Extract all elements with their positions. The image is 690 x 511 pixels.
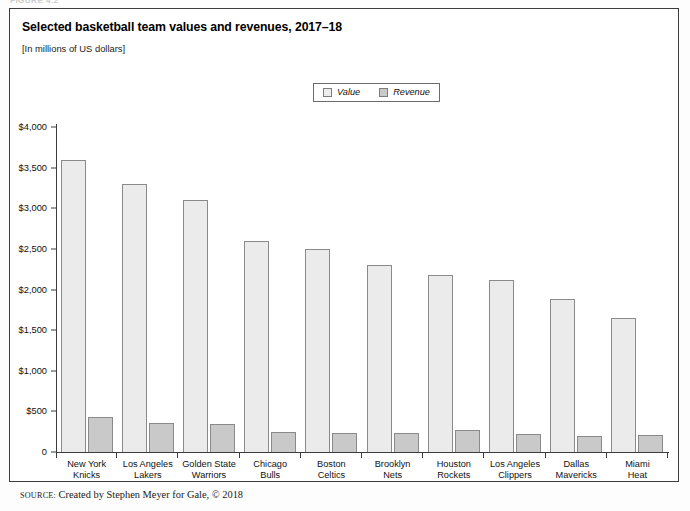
legend-label-revenue: Revenue: [393, 87, 430, 97]
bar-group: [240, 127, 301, 452]
x-axis-group-separator: [667, 452, 668, 458]
x-axis-group-separator: [422, 452, 423, 458]
x-axis-labels: New YorkKnicksLos AngelesLakersGolden St…: [56, 459, 668, 482]
x-axis-category-line: Bulls: [240, 470, 301, 481]
bar-value[interactable]: [183, 200, 208, 452]
x-axis-category-label: Golden StateWarriors: [178, 459, 239, 482]
x-axis-group-separator: [177, 452, 178, 458]
x-axis-category-label: DallasMavericks: [546, 459, 607, 482]
x-axis-category-line: Los Angeles: [117, 459, 178, 470]
x-axis-category-line: Brooklyn: [362, 459, 423, 470]
x-axis-category-line: Warriors: [178, 470, 239, 481]
bar-revenue[interactable]: [210, 424, 235, 452]
x-axis-category-line: Houston: [423, 459, 484, 470]
x-axis-category-line: Los Angeles: [484, 459, 545, 470]
x-axis-category-line: Mavericks: [546, 470, 607, 481]
x-axis-group-separator: [606, 452, 607, 458]
x-axis-group-separator: [116, 452, 117, 458]
x-axis-category-label: BostonCeltics: [301, 459, 362, 482]
x-axis-category-label: HoustonRockets: [423, 459, 484, 482]
x-axis-category-line: Lakers: [117, 470, 178, 481]
x-axis-category-line: New York: [56, 459, 117, 470]
bar-groups: [56, 127, 668, 452]
legend-item-value[interactable]: Value: [323, 87, 360, 97]
bar-revenue[interactable]: [394, 433, 419, 452]
page-title: Selected basketball team values and reve…: [22, 20, 342, 34]
x-axis-category-line: Heat: [607, 470, 668, 481]
x-axis-category-line: Boston: [301, 459, 362, 470]
x-axis-category-label: Los AngelesLakers: [117, 459, 178, 482]
figure-subtitle: [In millions of US dollars]: [22, 43, 125, 54]
bar-revenue[interactable]: [516, 434, 541, 452]
bar-revenue[interactable]: [577, 436, 602, 452]
x-axis-category-line: Celtics: [301, 470, 362, 481]
x-axis-group-separator: [239, 452, 240, 458]
source-note: SOURCE: Created by Stephen Meyer for Gal…: [20, 489, 243, 500]
bar-group: [178, 127, 239, 452]
bar-value[interactable]: [244, 241, 269, 452]
bar-group: [423, 127, 484, 452]
bar-value[interactable]: [367, 265, 392, 452]
bar-value[interactable]: [61, 160, 86, 453]
bar-group: [546, 127, 607, 452]
x-axis-category-label: MiamiHeat: [607, 459, 668, 482]
bar-value[interactable]: [122, 184, 147, 452]
bar-revenue[interactable]: [332, 433, 357, 452]
bar-revenue[interactable]: [149, 423, 174, 452]
bar-group: [117, 127, 178, 452]
figure-root: FIGURE 4.2 Selected basketball team valu…: [0, 0, 690, 511]
x-axis-category-line: Golden State: [178, 459, 239, 470]
chart-legend: Value Revenue: [313, 83, 440, 102]
bar-revenue[interactable]: [455, 430, 480, 452]
x-axis-category-label: BrooklynNets: [362, 459, 423, 482]
legend-swatch-value-icon: [323, 88, 332, 97]
x-axis-category-line: Nets: [362, 470, 423, 481]
x-axis-category-line: Chicago: [240, 459, 301, 470]
x-axis-category-line: Dallas: [546, 459, 607, 470]
x-axis-category-line: Clippers: [484, 470, 545, 481]
bar-revenue[interactable]: [271, 432, 296, 452]
x-axis-group-separator: [483, 452, 484, 458]
bar-value[interactable]: [489, 280, 514, 452]
source-text: Created by Stephen Meyer for Gale, © 201…: [56, 489, 243, 500]
legend-item-revenue[interactable]: Revenue: [379, 87, 430, 97]
legend-label-value: Value: [337, 87, 360, 97]
bar-value[interactable]: [305, 249, 330, 452]
x-axis-category-label: New YorkKnicks: [56, 459, 117, 482]
x-axis-category-label: ChicagoBulls: [240, 459, 301, 482]
x-axis-group-separator: [56, 452, 57, 458]
bar-group: [301, 127, 362, 452]
x-axis-category-line: Rockets: [423, 470, 484, 481]
x-axis-group-separator: [300, 452, 301, 458]
bar-value[interactable]: [428, 275, 453, 452]
bar-group: [607, 127, 668, 452]
x-axis-group-separator: [545, 452, 546, 458]
x-axis-category-line: Knicks: [56, 470, 117, 481]
source-keyword: SOURCE:: [20, 491, 56, 500]
bar-value[interactable]: [611, 318, 636, 452]
bar-group: [484, 127, 545, 452]
bar-revenue[interactable]: [88, 417, 113, 452]
bar-revenue[interactable]: [638, 435, 663, 452]
x-axis-category-label: Los AngelesClippers: [484, 459, 545, 482]
figure-number-label: FIGURE 4.2: [10, 0, 59, 4]
bar-group: [362, 127, 423, 452]
legend-swatch-revenue-icon: [379, 88, 388, 97]
bar-group: [56, 127, 117, 452]
x-axis-line: [56, 452, 669, 453]
x-axis-category-line: Miami: [607, 459, 668, 470]
x-axis-group-separator: [361, 452, 362, 458]
bar-value[interactable]: [550, 299, 575, 452]
